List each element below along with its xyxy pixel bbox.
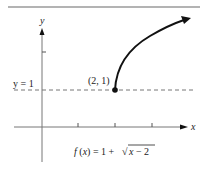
asymptote-label: y = 1 [13, 78, 34, 89]
radicand: x − 2 [128, 146, 149, 157]
function-curve [115, 20, 184, 90]
function-graph: y x y = 1 (2, 1) f (x) = 1 + √ x − 2 [0, 0, 208, 170]
start-point-marker [112, 87, 118, 93]
point-label: (2, 1) [88, 75, 110, 87]
x-axis-arrow-icon [180, 125, 188, 130]
function-label: f (x) = 1 + [74, 146, 115, 158]
x-axis-label: x [190, 121, 196, 132]
y-axis-label: y [39, 15, 45, 26]
radical-sign: √ [122, 146, 128, 157]
y-axis-arrow-icon [40, 28, 45, 35]
curve-arrow-icon [181, 16, 191, 24]
